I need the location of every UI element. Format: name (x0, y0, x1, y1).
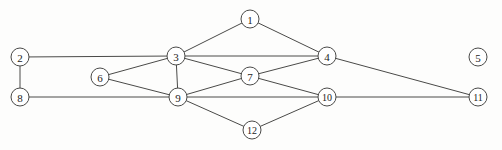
graph-edge-2-3 (29, 56, 167, 57)
graph-node-8[interactable]: 8 (11, 88, 29, 106)
node-circle-11[interactable] (469, 88, 487, 106)
node-circle-9[interactable] (169, 88, 187, 106)
graph-edge-4-11 (336, 58, 470, 94)
graph-canvas: 123456789101112 (0, 0, 502, 150)
node-circle-1[interactable] (241, 10, 259, 28)
graph-node-11[interactable]: 11 (469, 88, 487, 106)
node-circle-7[interactable] (241, 67, 259, 85)
graph-diagram: 123456789101112 (0, 0, 502, 150)
node-circle-10[interactable] (318, 88, 336, 106)
graph-edge-1-4 (258, 23, 319, 52)
graph-edge-3-6 (109, 58, 168, 74)
node-circle-8[interactable] (11, 88, 29, 106)
node-layer: 123456789101112 (11, 10, 487, 139)
graph-node-5[interactable]: 5 (469, 48, 487, 66)
graph-node-10[interactable]: 10 (318, 88, 336, 106)
graph-edge-1-3 (184, 23, 242, 52)
graph-edge-9-12 (186, 101, 244, 127)
graph-edge-6-9 (109, 79, 170, 95)
node-circle-4[interactable] (318, 47, 336, 65)
graph-edge-7-9 (187, 79, 242, 95)
node-circle-3[interactable] (167, 47, 185, 65)
node-circle-5[interactable] (469, 48, 487, 66)
graph-node-3[interactable]: 3 (167, 47, 185, 65)
node-circle-12[interactable] (243, 121, 261, 139)
graph-node-9[interactable]: 9 (169, 88, 187, 106)
graph-node-4[interactable]: 4 (318, 47, 336, 65)
graph-edge-4-7 (259, 58, 319, 73)
node-circle-6[interactable] (91, 68, 109, 86)
graph-edge-3-7 (185, 58, 242, 73)
graph-node-6[interactable]: 6 (91, 68, 109, 86)
graph-edge-10-12 (260, 101, 319, 127)
graph-node-2[interactable]: 2 (11, 48, 29, 66)
node-circle-2[interactable] (11, 48, 29, 66)
graph-node-12[interactable]: 12 (243, 121, 261, 139)
graph-node-1[interactable]: 1 (241, 10, 259, 28)
graph-edge-7-10 (259, 78, 319, 94)
graph-edge-3-9 (176, 65, 177, 88)
graph-node-7[interactable]: 7 (241, 67, 259, 85)
